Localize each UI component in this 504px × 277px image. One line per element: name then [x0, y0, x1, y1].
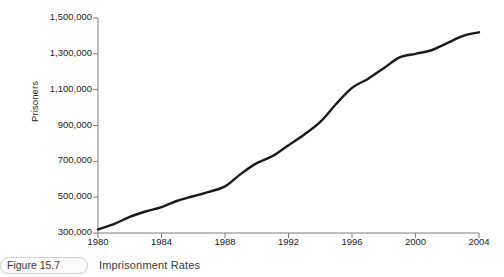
chart-figure: Prisoners 300,000500,000700,000900,0001,… [0, 0, 504, 248]
plot-canvas [0, 0, 504, 248]
figure-caption-text: Imprisonment Rates [99, 259, 200, 271]
x-axis-ticks [98, 233, 479, 238]
figure-caption: Figure 15.7 Imprisonment Rates [0, 253, 504, 277]
figure-number-badge: Figure 15.7 [0, 257, 88, 274]
axis-lines [98, 18, 479, 233]
y-axis-ticks [93, 18, 98, 233]
figure-page: Prisoners 300,000500,000700,000900,0001,… [0, 0, 504, 277]
data-series-line [98, 32, 479, 229]
